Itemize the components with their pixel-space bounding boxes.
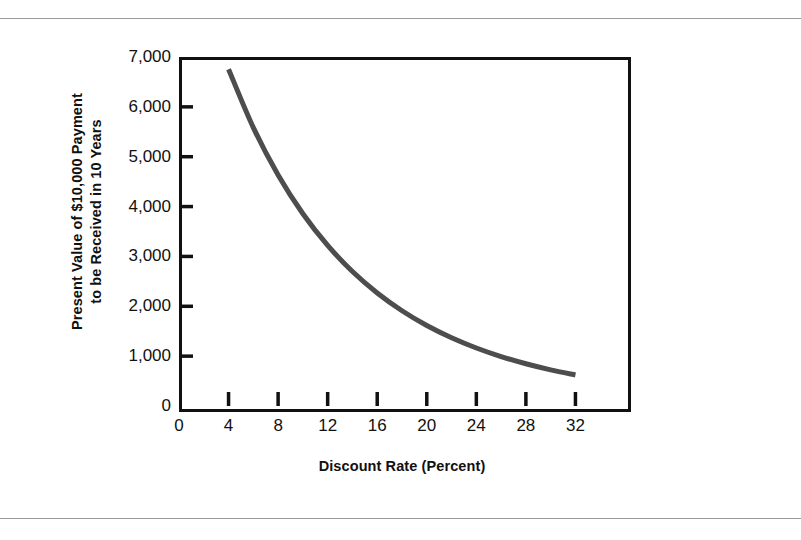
y-axis-tick-label: 1,000 (97, 346, 171, 366)
x-axis-tick-label: 8 (255, 416, 301, 436)
y-axis-tick-label: 3,000 (97, 246, 171, 266)
x-axis-tick-label: 24 (453, 416, 499, 436)
y-axis-tick-label: 4,000 (97, 197, 171, 217)
x-axis-tick-label: 32 (552, 416, 598, 436)
chart-figure: Present Value of $10,000 Payment to be R… (0, 18, 801, 518)
x-axis-tick-label: 0 (156, 416, 202, 436)
x-axis-tick-labels: 048121620242832 (179, 416, 649, 442)
y-axis-tick-label: 2,000 (97, 296, 171, 316)
x-axis-title: Discount Rate (Percent) (179, 458, 625, 474)
y-axis-tick-label: 5,000 (97, 147, 171, 167)
y-axis-tick-label: 7,000 (97, 47, 171, 67)
y-axis-tick-label: 0 (97, 396, 171, 416)
y-axis-tick-labels: 01,0002,0003,0004,0005,0006,0007,000 (95, 57, 171, 406)
page-rule-bottom (0, 518, 801, 519)
x-axis-tick-label: 4 (206, 416, 252, 436)
x-axis-tick-label: 16 (354, 416, 400, 436)
chart-page: Present Value of $10,000 Payment to be R… (0, 0, 801, 540)
y-axis-tick-label: 6,000 (97, 97, 171, 117)
x-axis-tick-label: 20 (404, 416, 450, 436)
y-axis-title-line-1: Present Value of $10,000 Payment (68, 47, 87, 377)
plot-area-frame (179, 57, 631, 412)
x-axis-tick-label: 28 (503, 416, 549, 436)
x-axis-tick-label: 12 (305, 416, 351, 436)
